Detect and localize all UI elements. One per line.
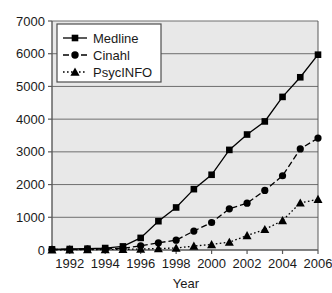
data-point-circle xyxy=(226,205,233,212)
x-tick-label: 2006 xyxy=(304,256,332,271)
data-point-circle xyxy=(297,145,304,152)
data-point-square xyxy=(155,218,162,225)
data-point-square xyxy=(72,35,79,42)
data-point-circle xyxy=(261,187,268,194)
y-tick-label: 3000 xyxy=(16,144,45,159)
legend-label-cinahl: Cinahl xyxy=(93,48,130,63)
chart-legend: MedlineCinahlPsycINFO xyxy=(57,24,161,82)
x-tick-label: 1994 xyxy=(91,256,120,271)
y-tick-label: 5000 xyxy=(16,79,45,94)
y-tick-label: 6000 xyxy=(16,46,45,61)
x-tick-label: 1998 xyxy=(162,256,191,271)
y-tick-label: 4000 xyxy=(16,112,45,127)
data-point-square xyxy=(297,74,304,81)
y-tick-label: 2000 xyxy=(16,177,45,192)
data-point-square xyxy=(279,94,286,101)
data-point-square xyxy=(208,171,215,178)
data-point-circle xyxy=(314,135,321,142)
chart-container: 01000200030004000500060007000 1992199419… xyxy=(0,0,332,293)
data-point-square xyxy=(244,131,251,138)
x-axis-title: Year xyxy=(173,276,200,291)
data-point-square xyxy=(262,118,269,125)
data-point-square xyxy=(226,147,233,154)
legend-label-psycinfo: PsycINFO xyxy=(93,65,152,80)
data-point-circle xyxy=(243,200,250,207)
data-point-circle xyxy=(208,219,215,226)
publications-line-chart: 01000200030004000500060007000 1992199419… xyxy=(0,0,332,293)
y-tick-label: 0 xyxy=(38,243,45,258)
x-tick-label: 2000 xyxy=(197,256,226,271)
y-tick-label: 1000 xyxy=(16,210,45,225)
data-point-square xyxy=(191,186,198,193)
x-tick-label: 2004 xyxy=(268,256,297,271)
data-point-circle xyxy=(190,227,197,234)
data-point-circle xyxy=(279,172,286,179)
x-tick-label: 2002 xyxy=(233,256,262,271)
x-tick-label: 1996 xyxy=(126,256,155,271)
data-point-square xyxy=(137,235,144,242)
data-point-circle xyxy=(173,237,180,244)
legend-label-medline: Medline xyxy=(93,31,139,46)
data-point-square xyxy=(315,51,322,58)
data-point-square xyxy=(173,204,180,211)
data-point-circle xyxy=(71,51,78,58)
y-tick-label: 7000 xyxy=(16,14,45,29)
x-tick-label: 1992 xyxy=(55,256,84,271)
